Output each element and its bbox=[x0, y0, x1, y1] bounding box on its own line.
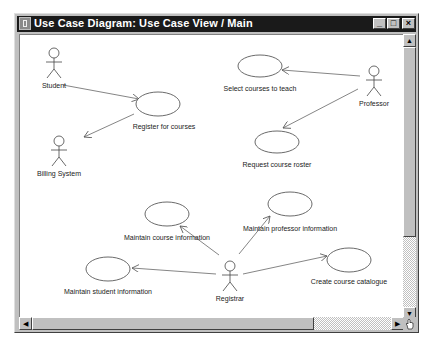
vertical-scroll-thumb[interactable] bbox=[403, 47, 416, 237]
use-case-ellipse[interactable] bbox=[268, 192, 312, 216]
actor-label: Professor bbox=[359, 100, 390, 107]
actor-professor[interactable]: Professor bbox=[359, 66, 390, 107]
use-case-request-course-roster[interactable]: Request course roster bbox=[243, 131, 313, 169]
actor-billing-system[interactable]: Billing System bbox=[37, 136, 81, 178]
use-case-label: Select courses to teach bbox=[224, 85, 297, 92]
title-bar[interactable]: Use Case Diagram: Use Case View / Main _… bbox=[17, 16, 416, 32]
use-case-register-for-courses[interactable]: Register for courses bbox=[133, 92, 196, 131]
use-case-create-course-catalogue[interactable]: Create course catalogue bbox=[311, 248, 387, 286]
association-professor-request-course-roster[interactable] bbox=[283, 89, 358, 128]
stick-figure-icon bbox=[46, 48, 62, 78]
association-professor-select-courses-to-teach[interactable] bbox=[282, 70, 360, 76]
use-case-select-courses-to-teach[interactable]: Select courses to teach bbox=[224, 55, 297, 92]
actor-label: Student bbox=[42, 82, 66, 89]
stick-figure-icon bbox=[366, 66, 382, 96]
hand-cursor-icon bbox=[403, 318, 416, 331]
actor-label: Registrar bbox=[216, 295, 245, 303]
diagram-window: Use Case Diagram: Use Case View / Main _… bbox=[14, 13, 419, 333]
use-case-maintain-course-information[interactable]: Maintain course information bbox=[124, 202, 210, 241]
actor-student[interactable]: Student bbox=[42, 48, 66, 89]
use-case-maintain-student-information[interactable]: Maintain student information bbox=[64, 257, 152, 295]
stick-figure-icon bbox=[51, 136, 67, 166]
actor-registrar[interactable]: Registrar bbox=[216, 261, 245, 303]
use-case-label: Register for courses bbox=[133, 123, 196, 131]
diagram-window-icon[interactable] bbox=[19, 17, 31, 30]
association-student-register-for-courses[interactable] bbox=[63, 85, 139, 99]
minimize-button[interactable]: _ bbox=[373, 18, 386, 29]
associations bbox=[63, 70, 360, 274]
use-case-ellipse[interactable] bbox=[145, 202, 189, 226]
use-case-ellipse[interactable] bbox=[86, 257, 130, 281]
use-case-diagram: Register for coursesSelect courses to te… bbox=[20, 35, 404, 320]
close-button[interactable]: × bbox=[402, 18, 415, 29]
use-case-ellipse[interactable] bbox=[238, 55, 282, 77]
window-title: Use Case Diagram: Use Case View / Main bbox=[34, 17, 253, 29]
use-case-ellipse[interactable] bbox=[136, 92, 180, 116]
use-case-label: Maintain course information bbox=[124, 234, 210, 241]
use-case-ellipse[interactable] bbox=[255, 131, 299, 153]
use-case-label: Create course catalogue bbox=[311, 278, 387, 286]
vertical-scrollbar[interactable]: ▲ ▼ bbox=[403, 34, 416, 320]
stick-figure-icon bbox=[222, 261, 238, 291]
association-registrar-maintain-professor-information[interactable] bbox=[239, 216, 270, 254]
use-case-label: Maintain professor information bbox=[243, 225, 337, 233]
use-case-ellipse[interactable] bbox=[327, 248, 371, 272]
use-case-label: Request course roster bbox=[243, 161, 313, 169]
association-register-for-courses-billing-system[interactable] bbox=[84, 114, 134, 137]
scroll-up-button[interactable]: ▲ bbox=[403, 34, 416, 47]
scroll-left-button[interactable]: ◀ bbox=[19, 317, 32, 330]
maximize-button[interactable]: □ bbox=[387, 18, 400, 29]
actor-label: Billing System bbox=[37, 170, 81, 178]
horizontal-scroll-thumb[interactable] bbox=[32, 317, 314, 330]
association-registrar-maintain-student-information[interactable] bbox=[132, 268, 216, 274]
use-case-maintain-professor-information[interactable]: Maintain professor information bbox=[243, 192, 337, 233]
use-cases: Register for coursesSelect courses to te… bbox=[64, 55, 387, 295]
association-registrar-create-course-catalogue[interactable] bbox=[243, 256, 327, 274]
use-case-label: Maintain student information bbox=[64, 288, 152, 295]
diagram-canvas[interactable]: Register for coursesSelect courses to te… bbox=[19, 34, 404, 320]
horizontal-scrollbar[interactable]: ◀ ▶ bbox=[19, 317, 404, 330]
resize-grip[interactable] bbox=[403, 317, 416, 330]
